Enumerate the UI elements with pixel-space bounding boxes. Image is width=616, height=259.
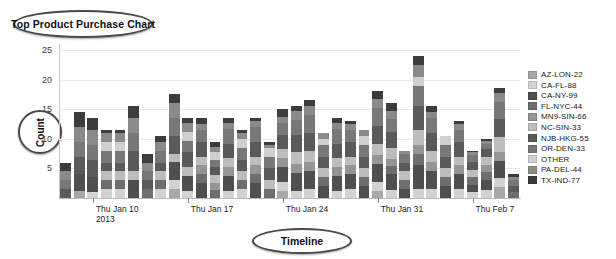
bar-segment[interactable] xyxy=(345,189,356,198)
bar-segment[interactable] xyxy=(74,142,85,157)
bar-stack[interactable] xyxy=(128,106,139,198)
bar-segment[interactable] xyxy=(277,149,288,158)
legend-item[interactable]: TX-IND-77 xyxy=(528,176,589,185)
bar-segment[interactable] xyxy=(467,162,478,169)
bar-segment[interactable] xyxy=(440,168,451,177)
bar-segment[interactable] xyxy=(87,160,98,178)
bar-segment[interactable] xyxy=(155,171,166,180)
bar-segment[interactable] xyxy=(494,161,505,179)
bar-segment[interactable] xyxy=(399,189,410,198)
bar-segment[interactable] xyxy=(101,180,112,189)
bar-segment[interactable] xyxy=(467,185,478,192)
bar-segment[interactable] xyxy=(291,173,302,191)
bar-segment[interactable] xyxy=(440,136,451,145)
bar-segment[interactable] xyxy=(264,157,275,169)
bar-segment[interactable] xyxy=(454,142,465,157)
bar-segment[interactable] xyxy=(494,119,505,137)
bar-segment[interactable] xyxy=(386,103,397,111)
bar-segment[interactable] xyxy=(223,176,234,191)
bar-stack[interactable] xyxy=(142,154,153,198)
bar-stack[interactable] xyxy=(237,130,248,198)
bar-segment[interactable] xyxy=(101,133,112,142)
legend-item[interactable]: OR-DEN-33 xyxy=(528,144,589,153)
bar-segment[interactable] xyxy=(454,157,465,166)
bar-segment[interactable] xyxy=(413,77,424,86)
bar-stack[interactable] xyxy=(250,118,261,198)
bar-segment[interactable] xyxy=(182,167,193,176)
bar-segment[interactable] xyxy=(196,174,207,183)
bar-segment[interactable] xyxy=(182,176,193,191)
bar-segment[interactable] xyxy=(182,152,193,167)
bar-segment[interactable] xyxy=(332,167,343,176)
bar-segment[interactable] xyxy=(291,152,302,164)
bar-segment[interactable] xyxy=(291,120,302,135)
bar-segment[interactable] xyxy=(210,167,221,175)
bar-segment[interactable] xyxy=(304,133,315,151)
bar-segment[interactable] xyxy=(155,142,166,151)
bar-segment[interactable] xyxy=(182,191,193,198)
bar-segment[interactable] xyxy=(494,187,505,198)
bar-stack[interactable] xyxy=(454,121,465,198)
bar-segment[interactable] xyxy=(87,145,98,160)
bar-segment[interactable] xyxy=(359,177,370,186)
bar-segment[interactable] xyxy=(359,145,370,157)
bar-segment[interactable] xyxy=(386,119,397,132)
bar-segment[interactable] xyxy=(237,180,248,189)
bar-segment[interactable] xyxy=(345,157,356,166)
bar-segment[interactable] xyxy=(210,175,221,183)
bar-segment[interactable] xyxy=(291,111,302,120)
bar-segment[interactable] xyxy=(74,112,85,127)
bar-segment[interactable] xyxy=(87,130,98,145)
bar-segment[interactable] xyxy=(169,162,180,180)
bar-segment[interactable] xyxy=(196,183,207,198)
bar-segment[interactable] xyxy=(182,141,193,153)
bar-segment[interactable] xyxy=(413,56,424,65)
bar-segment[interactable] xyxy=(386,166,397,174)
bar-segment[interactable] xyxy=(196,130,207,142)
bar-segment[interactable] xyxy=(291,135,302,153)
bar-segment[interactable] xyxy=(60,171,71,180)
bar-segment[interactable] xyxy=(413,86,424,107)
bar-segment[interactable] xyxy=(426,133,437,151)
bar-segment[interactable] xyxy=(399,154,410,163)
bar-segment[interactable] xyxy=(87,177,98,192)
bar-segment[interactable] xyxy=(74,174,85,191)
bar-segment[interactable] xyxy=(372,108,383,126)
bar-segment[interactable] xyxy=(115,133,126,142)
bar-segment[interactable] xyxy=(372,182,383,191)
bar-segment[interactable] xyxy=(128,118,139,133)
bar-stack[interactable] xyxy=(155,136,166,198)
bar-segment[interactable] xyxy=(155,189,166,198)
bar-segment[interactable] xyxy=(142,189,153,198)
bar-stack[interactable] xyxy=(508,174,519,198)
bar-segment[interactable] xyxy=(210,190,221,198)
legend-item[interactable]: CA-FL-88 xyxy=(528,81,589,90)
bar-stack[interactable] xyxy=(291,106,302,198)
bar-segment[interactable] xyxy=(74,157,85,175)
bar-segment[interactable] xyxy=(467,170,478,177)
bar-segment[interactable] xyxy=(386,148,397,159)
bar-segment[interactable] xyxy=(277,167,288,182)
bar-segment[interactable] xyxy=(345,142,356,157)
bar-segment[interactable] xyxy=(494,178,505,187)
bar-segment[interactable] xyxy=(169,154,180,163)
bar-stack[interactable] xyxy=(101,130,112,198)
bar-segment[interactable] xyxy=(210,183,221,191)
legend-item[interactable]: CA-NY-99 xyxy=(528,91,589,100)
bar-segment[interactable] xyxy=(277,182,288,191)
bar-stack[interactable] xyxy=(264,142,275,198)
bar-segment[interactable] xyxy=(359,157,370,169)
bar-segment[interactable] xyxy=(372,91,383,99)
bar-segment[interactable] xyxy=(237,139,248,148)
bar-segment[interactable] xyxy=(413,165,424,189)
bar-segment[interactable] xyxy=(142,163,153,172)
bar-stack[interactable] xyxy=(74,112,85,198)
bar-segment[interactable] xyxy=(182,123,193,132)
bar-segment[interactable] xyxy=(115,163,126,172)
bar-segment[interactable] xyxy=(413,65,424,77)
bar-segment[interactable] xyxy=(277,109,288,117)
legend-item[interactable]: OTHER xyxy=(528,155,589,164)
bar-stack[interactable] xyxy=(223,118,234,198)
bar-stack[interactable] xyxy=(87,118,98,198)
bar-stack[interactable] xyxy=(182,118,193,198)
